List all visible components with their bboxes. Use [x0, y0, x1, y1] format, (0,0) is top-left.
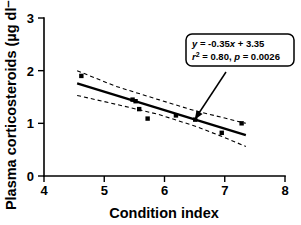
x-axis-tick-labels: 4 5 6 7 8 [40, 183, 288, 198]
annotation-arrow [195, 72, 226, 120]
annotation-stat-mid: = 0.80, [200, 51, 235, 62]
annotation-stat-end: = 0.0026 [240, 51, 280, 62]
data-point-9 [239, 121, 243, 125]
y-axis-ticks [38, 18, 44, 176]
data-point-1 [79, 74, 83, 78]
data-point-3 [133, 99, 137, 103]
x-axis-title: Condition index [109, 205, 219, 221]
y-tick-label-0: 0 [27, 169, 34, 184]
annotation-equation-line: y = -0.35x + 3.35 [191, 38, 265, 49]
scatter-plot-svg: 3 2 1 0 4 5 6 7 8 Condition index Plasma… [0, 0, 301, 225]
annotation-eq-parta: = -0.35 [197, 38, 230, 49]
y-tick-label-2: 2 [27, 64, 34, 79]
chart-figure: 3 2 1 0 4 5 6 7 8 Condition index Plasma… [0, 0, 301, 225]
annotation-eq-partc: + 3.35 [235, 38, 265, 49]
y-axis-title: Plasma corticosteroids (µg dl⁻¹) [3, 0, 19, 210]
x-tick-label-4: 4 [40, 183, 48, 198]
annotation-arrow-head [195, 110, 203, 120]
x-tick-label-8: 8 [281, 183, 288, 198]
x-axis-ticks [44, 176, 285, 182]
y-tick-label-1: 1 [27, 116, 34, 131]
confidence-band-lower [77, 95, 246, 146]
annotation-stats-line: r2 = 0.80, p = 0.0026 [192, 51, 280, 62]
x-tick-label-7: 7 [221, 183, 228, 198]
data-point-4 [137, 107, 141, 111]
annotation-arrow-shaft [197, 72, 226, 115]
data-point-5 [145, 116, 149, 120]
y-tick-label-3: 3 [27, 11, 34, 26]
regression-line [77, 83, 246, 135]
data-point-6 [174, 113, 178, 117]
x-tick-label-5: 5 [101, 183, 108, 198]
y-axis-tick-labels: 3 2 1 0 [27, 11, 34, 184]
x-tick-label-6: 6 [161, 183, 168, 198]
annotation-box: y = -0.35x + 3.35 r2 = 0.80, p = 0.0026 [186, 34, 294, 66]
data-point-8 [220, 131, 224, 135]
